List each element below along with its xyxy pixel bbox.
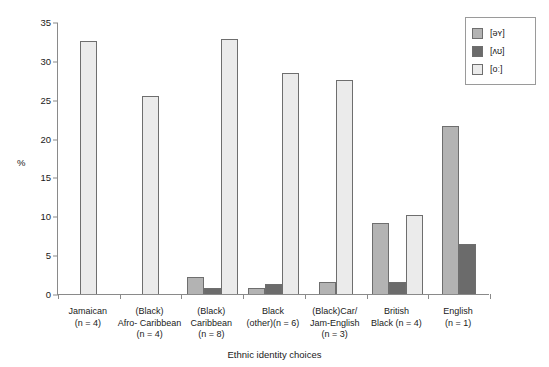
x-axis-tick-mark [58, 294, 59, 299]
bar [282, 73, 299, 294]
legend-item[interactable]: [əʏ] [472, 24, 530, 42]
bar [221, 39, 238, 294]
x-axis-title: Ethnic identity choices [0, 349, 549, 360]
bar-group [367, 23, 429, 294]
x-axis-label-line: (n = 1) [421, 318, 495, 330]
bar [336, 80, 353, 294]
bar [265, 284, 282, 294]
legend-item-label: [ʌʊ] [490, 46, 505, 56]
legend-swatch-light-gray [472, 64, 483, 75]
bar [442, 126, 459, 294]
legend-swatch-dark-gray [472, 46, 483, 57]
bar [459, 244, 476, 294]
x-axis-tick-mark [367, 294, 368, 299]
x-axis-tick-mark [181, 294, 182, 299]
x-axis-label-line: English [421, 306, 495, 318]
plot-area: 05101520253035 [57, 23, 489, 295]
x-axis-tick-mark [120, 294, 121, 299]
x-axis-group-label: English(n = 1) [421, 306, 495, 329]
bar-group [305, 23, 367, 294]
bar [389, 282, 406, 294]
x-axis-tick-mark [490, 294, 491, 299]
x-axis-tick-mark [428, 294, 429, 299]
bar [319, 282, 336, 294]
bar-group [181, 23, 243, 294]
bar [187, 277, 204, 294]
x-axis-tick-mark [243, 294, 244, 299]
legend-item[interactable]: [oː] [472, 60, 530, 78]
bar-group [243, 23, 305, 294]
bar [80, 41, 97, 294]
legend-item-label: [əʏ] [490, 28, 505, 38]
bar [248, 288, 265, 294]
legend-item-label: [oː] [490, 64, 503, 74]
bar [204, 288, 221, 294]
bar [372, 223, 389, 294]
bar-group [58, 23, 120, 294]
bar-chart: % 05101520253035 Ethnic identity choices… [0, 0, 549, 367]
bar [142, 96, 159, 294]
legend-item[interactable]: [ʌʊ] [472, 42, 530, 60]
x-axis-label-line: (n = 8) [174, 329, 248, 341]
x-axis-tick-mark [305, 294, 306, 299]
bar [406, 215, 423, 294]
x-axis-label-line: (n = 3) [298, 329, 372, 341]
bar-group [120, 23, 182, 294]
legend-swatch-medium-gray [472, 28, 483, 39]
chart-legend: [əʏ][ʌʊ][oː] [465, 17, 536, 85]
y-axis-label: % [17, 157, 25, 168]
